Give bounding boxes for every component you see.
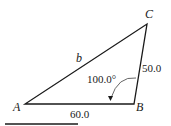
arrowhead-icon xyxy=(108,96,113,101)
vertex-label-a: A xyxy=(12,100,21,114)
triangle-diagram: A B C b 50.0 60.0 100.0° xyxy=(0,0,171,126)
angle-label-b: 100.0° xyxy=(87,73,116,85)
side-label-bc: 50.0 xyxy=(142,62,162,74)
side-label-b: b xyxy=(76,51,82,65)
side-label-ab: 60.0 xyxy=(70,108,90,120)
vertex-label-b: B xyxy=(136,100,144,114)
vertex-label-c: C xyxy=(145,7,154,21)
triangle-abc xyxy=(25,24,147,104)
